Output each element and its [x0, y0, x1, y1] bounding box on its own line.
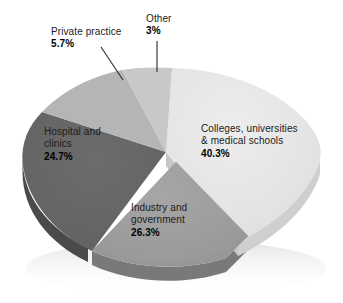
- slice-label-other-name: Other: [146, 13, 172, 24]
- slice-label-industry: Industry and government 26.3%: [131, 202, 187, 239]
- slice-label-industry-line1: Industry and: [131, 202, 187, 213]
- slice-value-industry: 26.3%: [131, 227, 160, 238]
- slice-value-colleges: 40.3%: [201, 148, 230, 159]
- pie-chart: Colleges, universities & medical schools…: [0, 0, 343, 303]
- slice-label-hospital-line2: clinics: [44, 138, 72, 149]
- slice-label-other: Other 3%: [146, 13, 172, 38]
- slice-value-private-practice: 5.7%: [51, 38, 122, 50]
- slice-label-private-practice: Private practice 5.7%: [51, 26, 122, 51]
- slice-label-private-practice-name: Private practice: [51, 26, 122, 37]
- slice-value-hospital: 24.7%: [44, 151, 73, 162]
- slice-label-hospital-line1: Hospital and: [44, 126, 101, 137]
- slice-label-colleges-line1: Colleges, universities: [201, 123, 298, 134]
- slice-value-other: 3%: [146, 25, 172, 37]
- slice-label-colleges-line2: & medical schools: [201, 135, 283, 146]
- slice-label-industry-line2: government: [131, 214, 185, 225]
- slice-label-hospital: Hospital and clinics 24.7%: [44, 126, 101, 163]
- slice-label-colleges: Colleges, universities & medical schools…: [201, 123, 298, 160]
